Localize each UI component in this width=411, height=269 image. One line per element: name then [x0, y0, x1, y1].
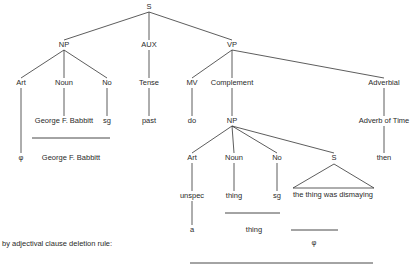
tree-node-tense: Tense — [139, 79, 159, 87]
tree-node-phi1: φ — [19, 154, 24, 162]
tree-node-vp: VP — [227, 41, 237, 49]
tree-node-no2: No — [272, 154, 282, 162]
tree-node-adverbial: Adverbial — [368, 79, 399, 87]
tree-branch — [149, 12, 232, 40]
tree-node-unspec: unspec — [180, 192, 204, 200]
tree-node-george2: George F. Babbitt — [42, 154, 100, 162]
tree-node-sg1: sg — [103, 117, 111, 125]
tree-node-no1: No — [102, 79, 112, 87]
tree-node-art1: Art — [16, 79, 26, 87]
tree-node-george1: George F. Babbitt — [35, 117, 93, 125]
tree-branch — [192, 50, 232, 78]
tree-branch — [232, 126, 277, 153]
tree-node-a: a — [190, 226, 194, 234]
tree-node-thing2: thing — [246, 226, 262, 234]
tree-node-thing1: thing — [226, 192, 242, 200]
tree-node-do: do — [188, 117, 196, 125]
tree-branch — [192, 126, 232, 153]
tree-node-s-root: S — [146, 3, 151, 11]
phrase-structure-tree-diagram: SNPAUXVPArtNounNoTenseMVComplementAdverb… — [0, 0, 411, 269]
tree-node-then: then — [377, 154, 392, 162]
tree-branch — [64, 50, 107, 78]
tree-node-art2: Art — [187, 154, 197, 162]
tree-branch — [21, 50, 64, 78]
tree-branch — [64, 12, 149, 40]
tree-branch — [232, 50, 384, 78]
tree-node-phi2: φ — [312, 239, 317, 247]
tree-node-noun1: Noun — [55, 79, 73, 87]
tree-node-s-embedded: S — [331, 154, 336, 162]
tree-node-past: past — [142, 117, 156, 125]
tree-node-mv: MV — [186, 79, 197, 87]
tree-node-adverb-time: Adverb of Time — [359, 117, 409, 125]
tree-branch — [232, 126, 334, 153]
clause-triangle — [293, 164, 374, 188]
tree-branch — [232, 126, 234, 153]
tree-node-clause: the thing was dismaying — [293, 191, 373, 199]
tree-node-aux: AUX — [141, 41, 156, 49]
tree-node-noun2: Noun — [225, 154, 243, 162]
tree-node-np2: NP — [227, 117, 237, 125]
tree-node-np1: NP — [59, 41, 69, 49]
tree-node-complement: Complement — [211, 79, 254, 87]
rule-caption: by adjectival clause deletion rule: — [2, 240, 112, 248]
tree-node-sg2: sg — [273, 192, 281, 200]
